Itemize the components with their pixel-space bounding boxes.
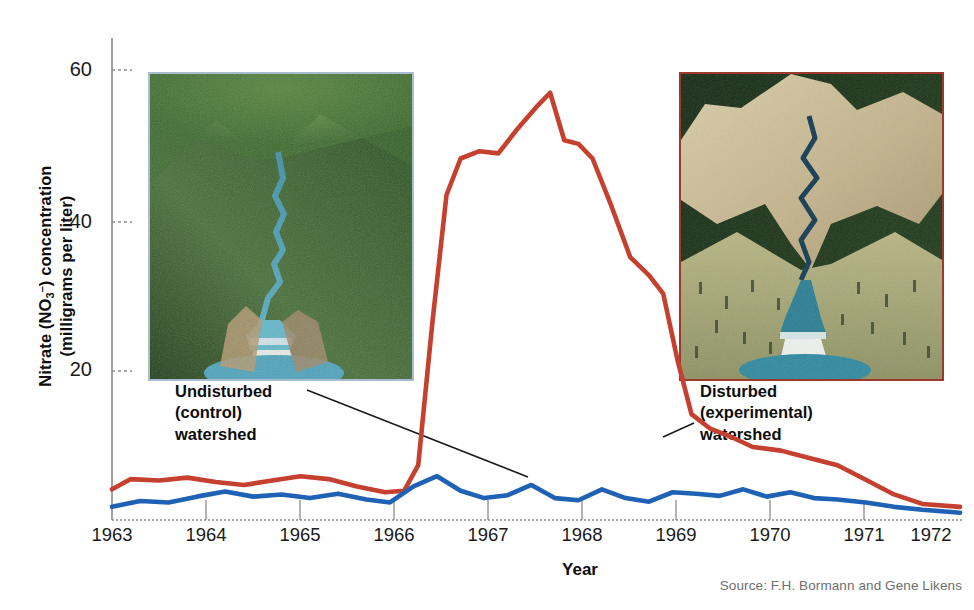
deforested-watershed-aerial-image xyxy=(681,74,942,379)
disturbed-annotation-line1: Disturbed xyxy=(700,382,777,400)
forested-watershed-aerial-image xyxy=(150,74,412,379)
y-tick-label-60: 60 xyxy=(48,58,92,81)
undisturbed-annotation-label: Undisturbed (control) watershed xyxy=(175,381,272,445)
disturbed-annotation-label: Disturbed (experimental) watershed xyxy=(700,381,813,445)
nitrate-concentration-line-chart: Nitrate (NO3–) concentration (milligrams… xyxy=(0,0,974,610)
undisturbed-watershed-photo xyxy=(148,72,414,381)
source-credit: Source: F.H. Bormann and Gene Likens xyxy=(720,578,962,593)
x-tick-label-1965: 1965 xyxy=(260,524,340,546)
undisturbed-annotation-line3: watershed xyxy=(175,425,257,443)
x-axis-title: Year xyxy=(520,560,640,580)
nitrate-charge-superscript: – xyxy=(36,286,48,292)
x-tick-label-1963: 1963 xyxy=(72,524,152,546)
undisturbed-annotation-line2: (control) xyxy=(175,403,242,421)
x-tick-label-1966: 1966 xyxy=(354,524,434,546)
x-tick-label-1967: 1967 xyxy=(448,524,528,546)
annotation-leader-lines xyxy=(307,390,694,477)
nitrate-subscript: 3 xyxy=(44,292,56,298)
x-tick-label-1969: 1969 xyxy=(636,524,716,546)
undisturbed-annotation-line1: Undisturbed xyxy=(175,382,272,400)
y-tick-label-20: 20 xyxy=(48,358,92,381)
x-tick-label-1964: 1964 xyxy=(166,524,246,546)
x-tick-label-1970: 1970 xyxy=(730,524,810,546)
disturbed-watershed-photo xyxy=(679,72,944,381)
y-axis-title-line1: Nitrate (NO3–) concentration xyxy=(36,165,54,386)
y-axis-title: Nitrate (NO3–) concentration (milligrams… xyxy=(35,126,77,426)
y-tick-label-40: 40 xyxy=(48,210,92,233)
x-tick-label-1968: 1968 xyxy=(542,524,622,546)
disturbed-annotation-line3: watershed xyxy=(700,425,782,443)
undisturbed-watershed-line xyxy=(112,476,960,513)
x-tick-label-1972: 1972 xyxy=(891,524,971,546)
disturbed-annotation-line2: (experimental) xyxy=(700,403,813,421)
